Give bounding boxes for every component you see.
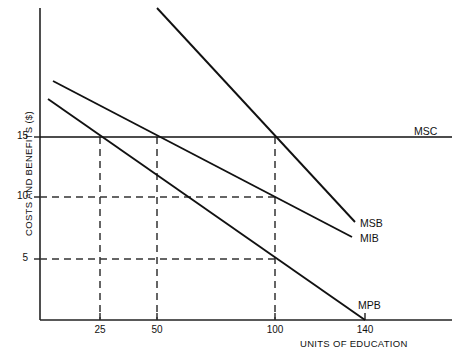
curve-label-mpb: MPB (358, 300, 381, 311)
x-axis-title: UNITS OF EDUCATION (300, 338, 408, 349)
curve-mib (53, 81, 352, 237)
x-tick-label-50: 50 (142, 325, 172, 335)
x-tick-label-140: 140 (350, 325, 380, 335)
curve-label-mib: MIB (360, 233, 379, 244)
x-tick-label-100: 100 (260, 325, 290, 335)
curve-msb (157, 8, 355, 222)
education-externality-chart: 15 10 5 25 50 100 140 MSC MSB MIB MPB CO… (0, 0, 452, 350)
x-tick-label-25: 25 (85, 325, 115, 335)
chart-plot-area (0, 0, 452, 350)
curve-mpb (48, 99, 365, 320)
y-axis-title: COSTS AND BENEFITS ($) (23, 94, 34, 254)
curve-label-msc: MSC (414, 126, 437, 137)
y-tick-label-5: 5 (4, 253, 28, 263)
curve-label-msb: MSB (360, 218, 383, 229)
